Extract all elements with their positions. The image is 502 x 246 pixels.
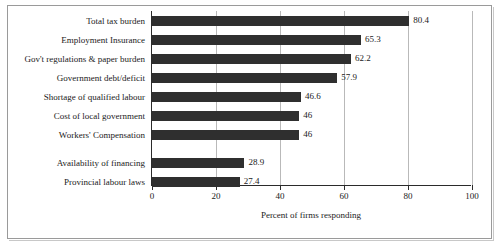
bar-value-label: 80.4: [413, 15, 429, 25]
bar-value-label: 62.2: [355, 53, 371, 63]
bar[interactable]: [152, 177, 240, 187]
bar[interactable]: [152, 54, 351, 64]
x-axis-tick-label: 60: [340, 191, 349, 201]
category-label: Total tax burden: [86, 16, 145, 26]
bar-value-label: 65.3: [365, 34, 381, 44]
category-label: Cost of local government: [54, 111, 145, 121]
bar-row: 57.9: [152, 73, 472, 83]
bar-row: 27.4: [152, 177, 472, 187]
bar-value-label: 46: [303, 129, 312, 139]
bar[interactable]: [152, 16, 409, 26]
x-axis-tick-label: 80: [404, 191, 413, 201]
bar[interactable]: [152, 35, 361, 45]
bar-row: 28.9: [152, 158, 472, 168]
bar[interactable]: [152, 130, 299, 140]
x-axis-tick: [472, 185, 473, 190]
bar-row: 46.6: [152, 92, 472, 102]
category-label: Gov't regulations & paper burden: [24, 54, 145, 64]
plot-area: 02040608010080.465.362.257.946.6464628.9…: [151, 11, 471, 186]
gridline: [472, 11, 473, 185]
bar-row: 46: [152, 130, 472, 140]
category-label: Government debt/deficit: [57, 73, 145, 83]
bar-row: 46: [152, 111, 472, 121]
category-label: Provincial labour laws: [64, 177, 145, 187]
category-label: Workers' Compensation: [59, 130, 145, 140]
bar-value-label: 27.4: [244, 176, 260, 186]
bar-row: 80.4: [152, 16, 472, 26]
bar[interactable]: [152, 73, 337, 83]
bar[interactable]: [152, 158, 244, 168]
chart-figure: Total tax burdenEmployment InsuranceGov'…: [0, 0, 502, 246]
category-label: Shortage of qualified labour: [44, 92, 145, 102]
x-axis-tick-label: 20: [212, 191, 221, 201]
bar-row: 65.3: [152, 35, 472, 45]
category-label: Availability of financing: [57, 158, 145, 168]
x-axis-tick-label: 100: [465, 191, 479, 201]
x-axis-tick-label: 0: [150, 191, 155, 201]
bar[interactable]: [152, 111, 299, 121]
x-axis-title: Percent of firms responding: [151, 210, 471, 220]
category-axis-labels: Total tax burdenEmployment InsuranceGov'…: [0, 11, 148, 186]
bar-value-label: 57.9: [341, 72, 357, 82]
x-axis-tick-label: 40: [276, 191, 285, 201]
category-label: Employment Insurance: [61, 35, 145, 45]
bar-value-label: 46: [303, 110, 312, 120]
bar-value-label: 28.9: [248, 157, 264, 167]
bar-row: 62.2: [152, 54, 472, 64]
bar-value-label: 46.6: [305, 91, 321, 101]
bar[interactable]: [152, 92, 301, 102]
